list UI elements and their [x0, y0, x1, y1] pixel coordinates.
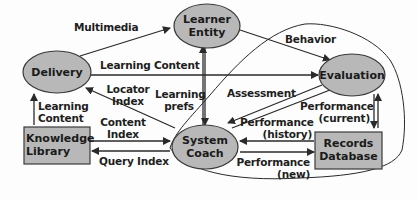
learner-entity-line2: Entity — [174, 26, 240, 39]
learning-prefs-line2: prefs — [155, 100, 203, 112]
learner-entity-line1: Learner — [174, 13, 240, 26]
label-locator-index: Locator Index — [106, 83, 150, 107]
system-coach-line2: Coach — [172, 147, 238, 160]
performance-new-line1: Performance — [236, 156, 310, 168]
performance-current-line1: Performance — [300, 100, 370, 112]
locator-index-line1: Locator — [106, 83, 150, 95]
label-learning-content-top: Learning Content — [100, 59, 200, 71]
label-performance-history: Performance (history) — [240, 116, 312, 140]
performance-history-line2: (history) — [240, 128, 312, 140]
evaluation-label: Evaluation — [319, 69, 385, 82]
label-behavior: Behavior — [285, 33, 336, 45]
performance-history-line1: Performance — [240, 116, 312, 128]
content-index-line1: Content — [98, 116, 148, 128]
learning-content-left-line2: Content — [38, 112, 89, 124]
label-learning-content-left: Learning Content — [38, 100, 89, 124]
learning-content-left-line1: Learning — [38, 100, 89, 112]
knowledge-library-line1: Knowledge — [26, 132, 92, 145]
architecture-diagram: Learner Entity Delivery Evaluation Syste… — [0, 0, 417, 201]
records-database-label: Records Database — [315, 137, 382, 163]
delivery-label: Delivery — [23, 66, 91, 79]
knowledge-library-label: Knowledge Library — [24, 132, 92, 158]
content-index-line2: Index — [98, 128, 148, 140]
records-database-line2: Database — [315, 150, 382, 163]
locator-index-line2: Index — [106, 95, 150, 107]
knowledge-library-line2: Library — [26, 145, 92, 158]
label-multimedia: Multimedia — [74, 21, 138, 33]
system-coach-line1: System — [172, 134, 238, 147]
records-database-line1: Records — [315, 137, 382, 150]
label-query-index: Query Index — [99, 155, 169, 167]
performance-new-line2: (new) — [236, 168, 310, 180]
label-content-index: Content Index — [98, 116, 148, 140]
label-learning-prefs: Learning prefs — [155, 88, 203, 112]
system-coach-label: System Coach — [172, 134, 238, 160]
learning-prefs-line1: Learning — [155, 88, 203, 100]
label-assessment: Assessment — [227, 87, 296, 99]
learner-entity-label: Learner Entity — [174, 13, 240, 39]
label-performance-new: Performance (new) — [236, 156, 310, 180]
